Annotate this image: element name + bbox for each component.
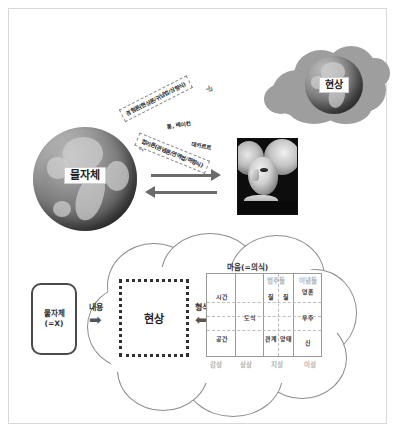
col-header-categories: 범주들 [267, 275, 285, 285]
arrow-right-content-icon: ➡ [89, 313, 102, 328]
col-header-ideas: 이념들 [299, 275, 317, 285]
cell-quality: 질 [265, 292, 277, 301]
cell-god: 신 [297, 338, 319, 347]
cell-modality: 양태 [279, 334, 293, 343]
callout-rationalism: 합리론(관념론/연역법/하향식) [134, 133, 210, 174]
cell-space: 공간 [213, 334, 231, 343]
attrib-rationalism-thinkers: 데카르트 [190, 140, 211, 151]
box-thing-label-line2: (=X) [45, 319, 64, 329]
arrow-left-head-icon [145, 186, 155, 198]
box-phenomenon: 현상 [119, 279, 189, 357]
faculty-sensibility: 감성 [210, 359, 222, 369]
arrow-left-shaft [155, 191, 217, 194]
bottom-panel: 물자체 (=X) 내용 ➡ 현상 형식 ⬅ 마음(=의식) 시간 공간 도식 질… [9, 223, 388, 425]
faculty-imagination: 상상 [240, 359, 252, 369]
faculty-reason: 이성 [304, 359, 316, 369]
top-panel: 물자체 현상 » » 경험론(현상론/귀납법/상향식) 통, 베이컨 합리론(관… [9, 9, 388, 223]
attrib-empiricism-thinkers: 통, 베이컨 [167, 119, 192, 130]
callout-empiricism: 경험론(현상론/귀납법/상향식) [119, 75, 193, 122]
label-mind-title: 마음(=의식) [227, 261, 268, 272]
arrow-right-shaft [151, 174, 213, 177]
diagram-frame: 물자체 현상 » » 경험론(현상론/귀납법/상향식) 통, 베이컨 합리론(관… [8, 8, 387, 424]
label-thing-in-itself: 물자체 [64, 167, 106, 184]
faculty-understanding: 지성 [271, 359, 283, 369]
mind-faculties-table: 시간 공간 도식 질 관계 질 양태 영혼 우주 신 [206, 273, 322, 357]
box-thing-label-line1: 물자체 [44, 309, 65, 319]
cell-soul: 영혼 [297, 287, 319, 296]
cell-schema: 도식 [240, 313, 260, 322]
box-thing-in-itself: 물자체 (=X) [31, 283, 77, 355]
cell-quantity: 질 [281, 292, 291, 301]
kant-portrait-image [237, 138, 298, 215]
cell-cosmos: 우주 [297, 313, 319, 322]
cell-relation: 관계 [265, 334, 277, 343]
arrow-right-head-icon [211, 169, 221, 181]
label-phenomenon: 현상 [319, 77, 349, 93]
chevron-up-icon: » [203, 80, 218, 97]
cell-time: 시간 [213, 292, 231, 301]
